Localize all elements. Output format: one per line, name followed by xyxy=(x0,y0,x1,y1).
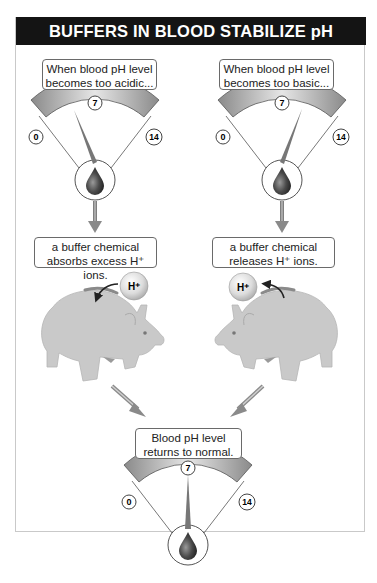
gauge-label: H⁺ xyxy=(237,282,249,293)
basic-condition-box: When blood pH level becomes too basic... xyxy=(219,59,334,90)
result-box: Blood pH level returns to normal. xyxy=(135,428,242,459)
left-piggy-bank xyxy=(42,288,164,381)
left-diagonal-arrow xyxy=(112,386,146,417)
releases-ions-box: a buffer chemical releases H⁺ ions. xyxy=(212,237,335,268)
gauge-label: 7 xyxy=(185,463,190,473)
gauge-label: 0 xyxy=(126,497,131,507)
right-down-arrow xyxy=(275,201,289,233)
right-ph-gauge xyxy=(216,75,349,200)
right-diagonal-arrow xyxy=(230,386,263,417)
left-ph-gauge xyxy=(29,75,162,200)
gauge-label: 14 xyxy=(149,132,159,142)
gauge-label: 7 xyxy=(279,98,284,108)
gauge-label: 14 xyxy=(242,497,252,507)
right-piggy-bank xyxy=(215,288,337,381)
left-down-arrow xyxy=(88,201,102,233)
left-gauge-min: 0 xyxy=(33,132,38,142)
gauge-label: 7 xyxy=(92,98,97,108)
gauge-label: 14 xyxy=(336,132,346,142)
gauge-label: 0 xyxy=(220,132,225,142)
gauge-label: H⁺ xyxy=(128,281,140,292)
absorbs-ions-box: a buffer chemical absorbs excess H⁺ ions… xyxy=(34,237,157,268)
acidic-condition-box: When blood pH level becomes too acidic..… xyxy=(42,59,157,90)
